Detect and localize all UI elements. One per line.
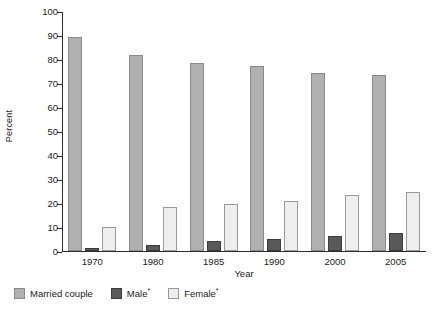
x-axis-tick-label: 2005 [365, 256, 426, 267]
y-axis-tick-label: 90 [47, 30, 58, 41]
bar-chart-figure: Percent 0102030405060708090100 197019801… [0, 0, 438, 310]
bar-female-1970 [102, 227, 116, 251]
x-axis-tick-label: 1985 [183, 256, 244, 267]
legend-label: Female* [184, 288, 218, 299]
chart-legend: Married coupleMale*Female* [14, 288, 219, 299]
y-axis-tick-label: 10 [47, 222, 58, 233]
bar-female-1985 [224, 204, 238, 251]
x-axis-title-text: Year [234, 268, 253, 279]
bar-female-1980 [163, 207, 177, 251]
bar-married-couple-1990 [250, 66, 264, 251]
legend-footnote-marker: * [216, 287, 219, 294]
legend-item-female[interactable]: Female* [168, 288, 218, 299]
bar-male-1980 [146, 245, 160, 251]
bar-group [129, 12, 177, 251]
y-axis-title: Percent [2, 0, 16, 252]
bar-group [190, 12, 238, 251]
x-axis-tick-label: 1990 [244, 256, 305, 267]
bar-married-couple-1980 [129, 55, 143, 251]
bar-male-2000 [328, 236, 342, 251]
y-axis-tick-label: 30 [47, 174, 58, 185]
bar-group [68, 12, 116, 251]
bar-male-1985 [207, 241, 221, 251]
x-axis-line [62, 251, 426, 252]
legend-swatch-icon [168, 288, 179, 299]
y-axis-tick-label: 70 [47, 78, 58, 89]
bar-male-1970 [85, 248, 99, 251]
bar-female-2005 [406, 192, 420, 251]
x-axis-title: Year [62, 268, 426, 279]
bar-female-2000 [345, 195, 359, 251]
y-axis-tick-label: 100 [42, 6, 58, 17]
bar-married-couple-2005 [372, 75, 386, 251]
plot-area: 0102030405060708090100 19701980198519902… [62, 12, 426, 252]
y-axis-tick-label: 50 [47, 126, 58, 137]
legend-swatch-icon [111, 288, 122, 299]
bar-group [372, 12, 420, 251]
bar-male-1990 [267, 239, 281, 251]
y-axis-tick-label: 40 [47, 150, 58, 161]
y-axis-title-text: Percent [4, 110, 14, 142]
legend-footnote-marker: * [147, 287, 150, 294]
legend-label: Male* [127, 288, 150, 299]
x-axis-tick-label: 2000 [305, 256, 366, 267]
legend-label: Married couple [30, 288, 93, 299]
x-axis-tick-label: 1980 [123, 256, 184, 267]
x-axis-tick-label: 1970 [62, 256, 123, 267]
legend-item-male[interactable]: Male* [111, 288, 150, 299]
legend-item-married-couple[interactable]: Married couple [14, 288, 93, 299]
bar-group [311, 12, 359, 251]
bar-married-couple-2000 [311, 73, 325, 251]
y-axis-tick-label: 80 [47, 54, 58, 65]
bar-group [250, 12, 298, 251]
y-axis-tick-label: 60 [47, 102, 58, 113]
bar-married-couple-1970 [68, 37, 82, 251]
bar-married-couple-1985 [190, 63, 204, 251]
bar-male-2005 [389, 233, 403, 251]
y-axis-line [62, 12, 63, 252]
y-axis-tick-label: 0 [53, 246, 58, 257]
legend-swatch-icon [14, 288, 25, 299]
y-axis-tick-label: 20 [47, 198, 58, 209]
bar-female-1990 [284, 201, 298, 251]
